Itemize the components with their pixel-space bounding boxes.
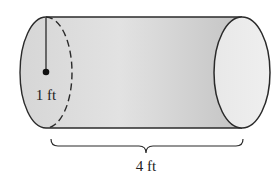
center-dot	[43, 69, 50, 76]
radius-label: 1 ft	[36, 87, 57, 103]
right-end-cap	[214, 17, 270, 128]
cylinder-diagram: 1 ft 4 ft	[0, 0, 273, 188]
length-brace	[51, 139, 243, 153]
length-label: 4 ft	[136, 158, 157, 174]
cylinder-body	[20, 17, 242, 128]
